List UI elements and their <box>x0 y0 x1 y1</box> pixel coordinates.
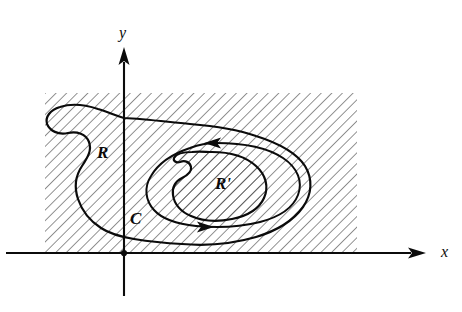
label-region-R: R <box>96 143 108 162</box>
region-diagram-svg: R C R' x y <box>0 0 462 312</box>
label-region-R-prime: R' <box>214 174 231 193</box>
label-curve-C: C <box>130 209 142 228</box>
x-axis-label: x <box>440 243 448 260</box>
origin-point <box>121 250 127 256</box>
figure-container: R C R' x y <box>0 0 462 312</box>
y-axis-label: y <box>117 24 127 42</box>
